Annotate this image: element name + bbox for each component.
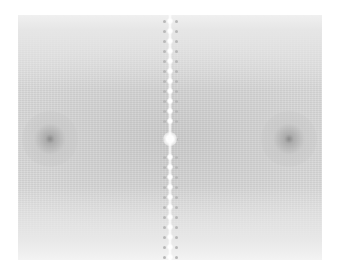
fourier-spectrum-image [18, 15, 322, 260]
harmonic-dot [163, 120, 166, 123]
harmonic-dot [175, 30, 178, 33]
harmonic-dot [163, 90, 166, 93]
harmonic-dot [163, 216, 166, 219]
harmonic-bright-spot [167, 254, 173, 260]
harmonic-dot [163, 80, 166, 83]
harmonic-dot [175, 206, 178, 209]
harmonic-dot [175, 246, 178, 249]
harmonic-dot [163, 186, 166, 189]
left-dark-spot [22, 111, 78, 167]
harmonic-bright-spot [167, 48, 173, 54]
harmonic-dot [163, 236, 166, 239]
harmonic-dot [175, 80, 178, 83]
harmonic-dot [175, 226, 178, 229]
harmonic-dot [175, 110, 178, 113]
harmonic-dot [163, 110, 166, 113]
harmonic-bright-spot [167, 204, 173, 210]
harmonic-dot [163, 206, 166, 209]
harmonic-dot [175, 90, 178, 93]
harmonic-bright-spot [167, 58, 173, 64]
harmonic-dot [163, 40, 166, 43]
harmonic-bright-spot [167, 38, 173, 44]
harmonic-dot [175, 70, 178, 73]
harmonic-bright-spot [167, 224, 173, 230]
harmonic-dot [163, 196, 166, 199]
harmonic-bright-spot [167, 98, 173, 104]
harmonic-dot [175, 176, 178, 179]
harmonic-bright-spot [167, 68, 173, 74]
harmonic-dot [163, 226, 166, 229]
harmonic-dot [175, 256, 178, 259]
harmonic-dot [175, 40, 178, 43]
harmonic-bright-spot [167, 28, 173, 34]
harmonic-dot [175, 120, 178, 123]
right-dark-spot [261, 111, 317, 167]
harmonic-dot [175, 236, 178, 239]
harmonic-dot [175, 156, 178, 159]
harmonic-bright-spot [167, 244, 173, 250]
harmonic-bright-spot [167, 184, 173, 190]
harmonic-dot [175, 196, 178, 199]
harmonic-dot [175, 100, 178, 103]
harmonic-dot [175, 20, 178, 23]
harmonic-dot [163, 166, 166, 169]
harmonic-bright-spot [167, 118, 173, 124]
harmonic-bright-spot [167, 174, 173, 180]
harmonic-bright-spot [167, 194, 173, 200]
harmonic-dot [175, 186, 178, 189]
harmonic-bright-spot [167, 78, 173, 84]
harmonic-dot [163, 60, 166, 63]
harmonic-dot [163, 256, 166, 259]
harmonic-dot [175, 60, 178, 63]
harmonic-dot [175, 50, 178, 53]
harmonic-bright-spot [167, 88, 173, 94]
harmonic-bright-spot [167, 18, 173, 24]
harmonic-dot [163, 30, 166, 33]
harmonic-bright-spot [167, 108, 173, 114]
harmonic-dot [163, 50, 166, 53]
harmonic-dot [175, 216, 178, 219]
harmonic-dot [163, 246, 166, 249]
harmonic-dot [163, 20, 166, 23]
harmonic-bright-spot [167, 164, 173, 170]
harmonic-bright-spot [167, 214, 173, 220]
harmonic-dot [163, 176, 166, 179]
harmonic-bright-spot [167, 154, 173, 160]
harmonic-dot [175, 166, 178, 169]
dc-center-spot [163, 132, 177, 146]
harmonic-dot [163, 156, 166, 159]
harmonic-dot [163, 100, 166, 103]
harmonic-dot [163, 70, 166, 73]
harmonic-bright-spot [167, 234, 173, 240]
